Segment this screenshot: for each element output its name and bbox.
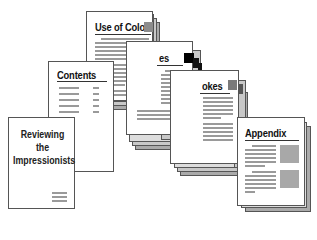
appendix-page: Appendix bbox=[237, 117, 305, 206]
cover-title-line-2: the bbox=[13, 141, 72, 154]
cover-title: Reviewing the Impressionists bbox=[13, 128, 72, 167]
cover-title-line-1: Reviewing bbox=[13, 128, 72, 141]
appendix-title: Appendix bbox=[245, 127, 286, 139]
cover-page: Reviewing the Impressionists bbox=[8, 117, 75, 209]
cover-title-line-3: Impressionists bbox=[13, 154, 72, 167]
use-of-color-tab bbox=[144, 22, 153, 32]
section-okes-tab bbox=[228, 80, 237, 90]
section-okes-page: okes bbox=[170, 70, 239, 164]
section-okes-title: okes bbox=[202, 80, 223, 92]
section-es-title: es bbox=[159, 52, 169, 64]
appendix-image-1 bbox=[280, 145, 299, 163]
appendix-image-2 bbox=[280, 170, 299, 188]
use-of-color-title: Use of Color bbox=[95, 21, 149, 33]
contents-title: Contents bbox=[57, 69, 96, 81]
